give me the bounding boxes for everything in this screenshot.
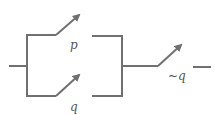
switch-p-arrow-icon bbox=[56, 15, 79, 35]
switch-p: p bbox=[56, 15, 79, 52]
switch-not-q-arrow-icon bbox=[158, 45, 181, 66]
switch-not-q-label: ~q bbox=[168, 69, 186, 83]
switch-q-label: q bbox=[70, 100, 78, 114]
circuit-diagram: p q ~q bbox=[0, 0, 214, 115]
switch-p-label: p bbox=[70, 38, 78, 52]
switch-q-arrow-icon bbox=[56, 75, 79, 96]
switch-not-q: ~q bbox=[158, 45, 186, 83]
parallel-left-bus bbox=[27, 35, 56, 96]
switch-q: q bbox=[56, 75, 79, 114]
parallel-right-bus bbox=[92, 36, 122, 96]
